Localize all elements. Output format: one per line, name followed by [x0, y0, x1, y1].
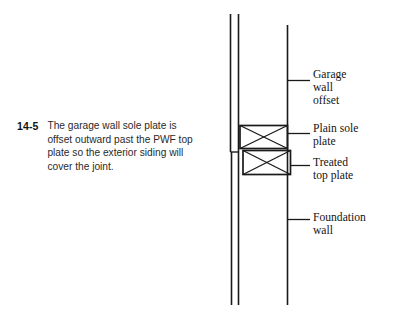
- callout-foundation-wall: Foundation wall: [313, 211, 366, 237]
- figure-page: 14-5 The garage wall sole plate is offse…: [0, 0, 412, 318]
- callout-treated-top-plate: Treated top plate: [313, 156, 353, 182]
- callout-line: Foundation: [313, 211, 366, 224]
- callout-line: Treated: [313, 156, 353, 169]
- callout-line: offset: [313, 94, 346, 107]
- callout-line: plate: [313, 135, 358, 148]
- callout-line: Garage: [313, 68, 346, 81]
- callout-plain-sole-plate: Plain sole plate: [313, 122, 358, 148]
- treated-top-plate-member: [243, 151, 291, 175]
- callout-line: wall: [313, 81, 346, 94]
- callout-line: Plain sole: [313, 122, 358, 135]
- plain-sole-plate-member: [240, 126, 288, 149]
- callout-garage-wall-offset: Garage wall offset: [313, 68, 346, 108]
- callout-line: top plate: [313, 169, 353, 182]
- callout-line: wall: [313, 224, 366, 237]
